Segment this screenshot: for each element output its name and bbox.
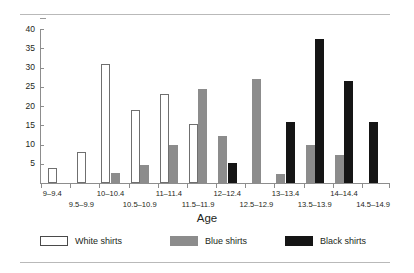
x-axis-tick	[70, 184, 71, 188]
bar	[131, 110, 140, 183]
bar	[111, 173, 120, 183]
x-axis-tick-label: 11–11.4	[145, 190, 193, 198]
bar	[335, 155, 344, 183]
legend-item-white[interactable]: White shirts	[40, 236, 122, 246]
bar	[169, 145, 178, 183]
y-axis-tick-label: 10	[11, 140, 35, 149]
x-axis-tick	[41, 184, 42, 188]
y-axis-tick-label: 40	[11, 25, 35, 34]
bottom-divider-rule	[20, 262, 390, 263]
bar	[101, 64, 110, 183]
y-axis-tick-label: 5	[11, 159, 35, 168]
black-swatch-icon	[285, 236, 313, 246]
chart-figure: Percent 510152025303540 9–9.49.5–9.910–1…	[0, 0, 414, 273]
bar	[228, 163, 237, 183]
bar	[344, 81, 353, 183]
top-dash-mark	[40, 18, 46, 19]
legend-label: White shirts	[75, 236, 122, 246]
x-axis-tick-label: 10.5–10.9	[116, 201, 164, 209]
x-axis-title: Age	[0, 212, 414, 224]
x-axis-tick-label: 13–13.4	[262, 190, 310, 198]
bar	[198, 89, 207, 183]
x-axis-tick-label: 12.5–12.9	[232, 201, 280, 209]
x-axis-tick-label: 14–14.4	[320, 190, 368, 198]
blue-swatch-icon	[170, 236, 198, 246]
y-axis-tick-label: 20	[11, 102, 35, 111]
x-axis-tick-label: 9–9.4	[28, 190, 76, 198]
bar	[160, 94, 169, 183]
bar	[286, 122, 295, 183]
bar	[140, 165, 149, 183]
x-axis-tick	[274, 184, 275, 188]
x-axis-tick	[362, 184, 363, 188]
x-axis-line	[40, 183, 390, 184]
bar	[48, 168, 57, 183]
legend-item-blue[interactable]: Blue shirts	[170, 236, 247, 246]
x-axis-tick	[187, 184, 188, 188]
x-axis-tick	[304, 184, 305, 188]
x-axis-tick	[216, 184, 217, 188]
bar	[369, 122, 378, 183]
legend-label: Blue shirts	[205, 236, 247, 246]
x-axis-tick-label: 13.5–13.9	[291, 201, 339, 209]
bar	[189, 124, 198, 183]
x-axis-tick	[99, 184, 100, 188]
x-axis-tick-label: 11.5–11.9	[174, 201, 222, 209]
x-axis-tick	[158, 184, 159, 188]
chart-legend: White shirtsBlue shirtsBlack shirts	[40, 236, 390, 252]
x-axis-tick-label: 12–12.4	[203, 190, 251, 198]
x-axis-tick-label: 14.5–14.9	[349, 201, 397, 209]
bar	[218, 136, 227, 183]
plot-area	[40, 29, 390, 183]
x-axis-tick-label: 10–10.4	[87, 190, 135, 198]
bar	[315, 39, 324, 183]
y-axis-tick-label: 15	[11, 121, 35, 130]
x-axis-tick	[389, 184, 390, 188]
x-axis-tick	[333, 184, 334, 188]
y-axis-tick-label: 35	[11, 44, 35, 53]
bar	[77, 152, 86, 183]
bar	[276, 174, 285, 183]
bar	[306, 145, 315, 183]
x-axis-tick	[245, 184, 246, 188]
legend-label: Black shirts	[320, 236, 366, 246]
x-axis-tick	[129, 184, 130, 188]
white-swatch-icon	[40, 236, 68, 246]
x-axis-tick-label: 9.5–9.9	[57, 201, 105, 209]
legend-item-black[interactable]: Black shirts	[285, 236, 366, 246]
y-axis-tick-label: 30	[11, 63, 35, 72]
top-divider-rule	[20, 14, 390, 15]
y-axis-tick-label: 25	[11, 82, 35, 91]
bar	[252, 79, 261, 183]
